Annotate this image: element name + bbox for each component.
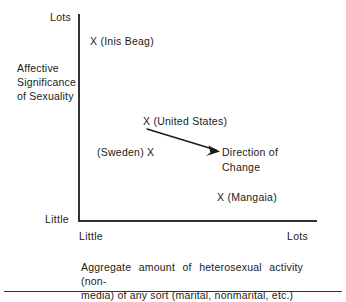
y-axis-line (78, 14, 80, 222)
y-axis-tick-little: Little (45, 213, 69, 225)
data-point-united-states: X (United States) (143, 115, 227, 127)
y-axis-title-line-2: Significance (17, 75, 79, 89)
y-axis-tick-lots: Lots (50, 11, 71, 23)
figure-caption: Aggregate amount of heterosexual activit… (81, 260, 303, 302)
data-point-sweden: (Sweden) X (97, 146, 154, 158)
figure-caption-line-1: Aggregate amount of heterosexual activit… (81, 260, 303, 288)
y-axis-title-line-3: of Sexuality (17, 89, 79, 103)
y-axis-title: Affective Significance of Sexuality (17, 61, 79, 103)
x-axis-tick-lots: Lots (287, 230, 308, 242)
bottom-divider (4, 291, 342, 292)
y-axis-title-line-1: Affective (17, 61, 79, 75)
direction-of-change-line-2: Change (222, 160, 302, 175)
direction-of-change-label: Direction of Change (222, 145, 302, 174)
direction-of-change-line-1: Direction of (222, 145, 302, 160)
data-point-mangaia: X (Mangaia) (217, 191, 277, 203)
data-point-inis-beag: X (Inis Beag) (90, 35, 154, 47)
x-axis-tick-little: Little (79, 230, 103, 242)
x-axis-line (78, 220, 317, 222)
